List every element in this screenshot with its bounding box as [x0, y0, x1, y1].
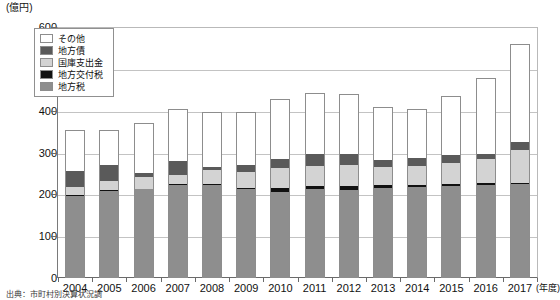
- bar-segment-2007-4: [168, 109, 188, 161]
- bar-segment-2006-0: [134, 189, 154, 278]
- bar-2004[interactable]: [65, 130, 85, 278]
- x-label-2011: 2011: [303, 281, 327, 295]
- bar-segment-2010-2: [270, 168, 290, 189]
- bar-segment-2008-2: [202, 170, 222, 184]
- bar-segment-2007-3: [168, 161, 188, 174]
- bar-segment-2004-2: [65, 187, 85, 195]
- bar-segment-2013-4: [373, 107, 393, 159]
- x-label-2007: 2007: [166, 281, 190, 295]
- bar-segment-2009-4: [236, 112, 256, 165]
- bar-segment-2017-2: [510, 150, 530, 183]
- bar-segment-2015-4: [441, 96, 461, 155]
- bar-segment-2004-3: [65, 171, 85, 187]
- bar-segment-2005-4: [99, 130, 119, 165]
- bar-segment-2013-0: [373, 188, 393, 278]
- bar-2010[interactable]: [270, 99, 290, 278]
- bar-segment-2010-0: [270, 192, 290, 278]
- bar-segment-2013-3: [373, 160, 393, 168]
- bars-container: [58, 27, 537, 278]
- bar-segment-2014-3: [407, 158, 427, 166]
- bar-segment-2013-2: [373, 167, 393, 185]
- legend-label-2: 国庫支出金: [58, 58, 103, 68]
- bar-segment-2011-2: [305, 166, 325, 186]
- bar-segment-2004-4: [65, 130, 85, 171]
- bar-2012[interactable]: [339, 94, 359, 278]
- legend-swatch-icon-2: [40, 58, 53, 67]
- legend-label-0: その他: [58, 34, 85, 44]
- bar-segment-2011-3: [305, 154, 325, 166]
- legend-swatch-icon-1: [40, 46, 53, 55]
- bar-2015[interactable]: [441, 96, 461, 278]
- bar-segment-2016-2: [476, 159, 496, 183]
- source-note: 出典：市町村別決算状況調: [6, 290, 102, 300]
- bar-2006[interactable]: [134, 123, 154, 278]
- bar-2013[interactable]: [373, 107, 393, 278]
- bar-segment-2006-4: [134, 123, 154, 173]
- y-tick-label-200: 200: [9, 189, 57, 200]
- bar-2009[interactable]: [236, 112, 256, 278]
- legend-item-1[interactable]: 地方債: [40, 45, 108, 56]
- bar-segment-2008-4: [202, 112, 222, 167]
- y-tick-label-300: 300: [9, 148, 57, 159]
- bar-segment-2005-2: [99, 181, 119, 190]
- bar-segment-2015-0: [441, 186, 461, 278]
- legend-swatch-icon-0: [40, 34, 53, 43]
- chart-legend: その他地方債国庫支出金地方交付税地方税: [34, 28, 114, 97]
- bar-segment-2005-3: [99, 165, 119, 180]
- x-axis-unit-label: (年度): [536, 281, 560, 295]
- x-label-2006: 2006: [131, 281, 155, 295]
- x-label-2016: 2016: [473, 281, 497, 295]
- bar-2005[interactable]: [99, 130, 119, 278]
- bar-segment-2009-2: [236, 172, 256, 188]
- bar-segment-2008-0: [202, 185, 222, 278]
- legend-item-3[interactable]: 地方交付税: [40, 69, 108, 80]
- legend-swatch-icon-4: [40, 82, 53, 91]
- bar-segment-2010-3: [270, 159, 290, 167]
- bar-segment-2017-3: [510, 142, 530, 150]
- bar-2008[interactable]: [202, 112, 222, 278]
- bar-segment-2007-0: [168, 185, 188, 278]
- legend-item-2[interactable]: 国庫支出金: [40, 57, 108, 68]
- bar-segment-2007-2: [168, 175, 188, 184]
- bar-segment-2014-0: [407, 187, 427, 278]
- bar-segment-2016-4: [476, 78, 496, 154]
- bar-segment-2012-3: [339, 154, 359, 165]
- bar-segment-2016-0: [476, 185, 496, 278]
- bar-segment-2012-2: [339, 165, 359, 186]
- bar-segment-2011-0: [305, 189, 325, 278]
- bar-segment-2004-0: [65, 196, 85, 278]
- bar-segment-2017-4: [510, 44, 530, 142]
- x-label-2012: 2012: [337, 281, 361, 295]
- legend-label-3: 地方交付税: [58, 70, 103, 80]
- bar-2007[interactable]: [168, 109, 188, 278]
- bar-2014[interactable]: [407, 109, 427, 278]
- bar-2017[interactable]: [510, 44, 530, 278]
- y-tick-label-100: 100: [9, 231, 57, 242]
- bar-segment-2006-2: [134, 177, 154, 188]
- legend-swatch-icon-3: [40, 70, 53, 79]
- x-label-2013: 2013: [371, 281, 395, 295]
- bar-segment-2009-0: [236, 189, 256, 278]
- bar-segment-2015-3: [441, 155, 461, 163]
- legend-label-1: 地方債: [58, 46, 85, 56]
- bar-segment-2010-4: [270, 99, 290, 159]
- y-tick-label-400: 400: [9, 106, 57, 117]
- bar-segment-2011-4: [305, 93, 325, 154]
- legend-item-4[interactable]: 地方税: [40, 81, 108, 92]
- legend-item-0[interactable]: その他: [40, 33, 108, 44]
- x-label-2010: 2010: [268, 281, 292, 295]
- bar-segment-2009-3: [236, 165, 256, 173]
- x-label-2008: 2008: [200, 281, 224, 295]
- bar-2011[interactable]: [305, 93, 325, 278]
- bar-segment-2012-4: [339, 94, 359, 155]
- bar-segment-2012-0: [339, 190, 359, 278]
- x-label-2009: 2009: [234, 281, 258, 295]
- bar-segment-2015-2: [441, 163, 461, 184]
- x-label-2014: 2014: [405, 281, 429, 295]
- bar-2016[interactable]: [476, 78, 496, 278]
- x-label-2015: 2015: [439, 281, 463, 295]
- bar-segment-2017-0: [510, 184, 530, 278]
- bar-segment-2014-4: [407, 109, 427, 158]
- bar-segment-2014-2: [407, 166, 427, 184]
